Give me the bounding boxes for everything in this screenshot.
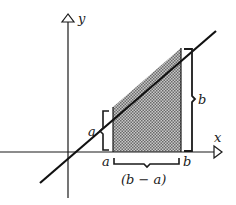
- height-b-label: b: [198, 92, 206, 107]
- x-axis-label: x: [214, 130, 222, 145]
- height-b-brace: [184, 49, 195, 151]
- height-a-brace: [100, 111, 109, 150]
- tick-a-label: a: [102, 154, 110, 169]
- width-brace: [114, 158, 179, 167]
- height-a-label: a: [88, 124, 96, 139]
- y-axis-label: y: [77, 11, 86, 26]
- width-label: (b − a): [121, 172, 166, 187]
- shaded-area: [113, 48, 181, 152]
- tick-b-label: b: [183, 154, 191, 169]
- y-axis-arrow-icon: [62, 14, 74, 22]
- area-diagram: y x a b (b − a) a b: [0, 0, 236, 205]
- x-axis-arrow-icon: [214, 146, 222, 158]
